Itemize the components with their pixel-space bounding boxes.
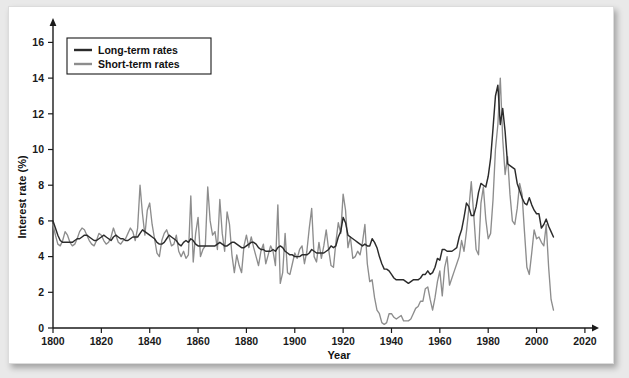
x-axis-title: Year xyxy=(327,349,351,361)
x-tick-label: 1840 xyxy=(138,335,162,347)
x-tick-label: 1800 xyxy=(41,335,65,347)
x-tick-label: 1900 xyxy=(283,335,307,347)
chart-figure: 0246810121416 18001820184018601880190019… xyxy=(8,6,614,364)
interest-rate-line-chart: 0246810121416 18001820184018601880190019… xyxy=(9,7,613,363)
x-tick-label: 2000 xyxy=(525,335,549,347)
y-tick-label: 8 xyxy=(38,179,44,191)
x-tick-label: 1960 xyxy=(428,335,452,347)
x-tick-label: 1940 xyxy=(380,335,404,347)
x-tick-label: 1880 xyxy=(235,335,259,347)
y-tick-label: 4 xyxy=(38,250,44,262)
legend-label-long-term: Long-term rates xyxy=(98,44,178,56)
y-tick-label: 14 xyxy=(32,72,44,84)
x-tick-label: 1920 xyxy=(331,335,355,347)
x-tick-label: 1820 xyxy=(90,335,114,347)
y-tick-label: 0 xyxy=(38,322,44,334)
y-tick-label: 16 xyxy=(32,36,44,48)
y-tick-label: 6 xyxy=(38,215,44,227)
y-axis-title: Interest rate (%) xyxy=(16,155,28,238)
x-tick-label: 1860 xyxy=(186,335,210,347)
y-tick-label: 2 xyxy=(38,286,44,298)
chart-legend[interactable]: Long-term rates Short-term rates xyxy=(67,38,211,74)
legend-label-short-term: Short-term rates xyxy=(98,58,180,70)
y-tick-label: 12 xyxy=(32,108,44,120)
x-tick-label: 2020 xyxy=(573,335,597,347)
y-tick-label: 10 xyxy=(32,143,44,155)
x-tick-label: 1980 xyxy=(477,335,501,347)
